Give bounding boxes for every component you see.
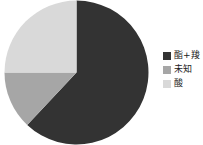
legend-label-unknown: 未知 <box>174 63 192 76</box>
pie-chart-svg <box>4 0 149 145</box>
pie-chart-figure: 酯+羧 未知 酸 <box>0 0 203 145</box>
legend-item-unknown[interactable]: 未知 <box>163 63 203 76</box>
pie-chart-plot-area <box>4 0 149 145</box>
chart-legend: 酯+羧 未知 酸 <box>163 49 203 93</box>
pie-slice[interactable] <box>5 1 77 73</box>
legend-swatch-unknown <box>163 66 171 74</box>
legend-label-acid: 酸 <box>174 77 183 90</box>
legend-label-ester-carboxyl: 酯+羧 <box>174 49 200 62</box>
legend-item-ester-carboxyl[interactable]: 酯+羧 <box>163 49 203 62</box>
legend-swatch-acid <box>163 80 171 88</box>
legend-swatch-ester-carboxyl <box>163 52 171 60</box>
legend-item-acid[interactable]: 酸 <box>163 77 203 90</box>
pie-slice-group <box>5 1 149 145</box>
